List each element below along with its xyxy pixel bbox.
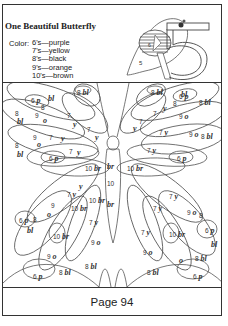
region-label: 10 br bbox=[53, 233, 69, 241]
region-label: 6 p bbox=[33, 273, 42, 281]
region-label: 9 o bbox=[179, 113, 188, 121]
region-label: 8 bl bbox=[199, 99, 211, 107]
worksheet-page: One Beautiful Butterfly Color: 6's—purpl… bbox=[2, 4, 222, 316]
region-label: 10 br bbox=[169, 231, 185, 239]
region-label: 8 bl bbox=[85, 263, 97, 271]
region-label: br bbox=[107, 163, 114, 171]
worksheet-header: One Beautiful Butterfly Color: 6's—purpl… bbox=[3, 5, 221, 83]
region-label: o bbox=[47, 211, 51, 219]
region-label: y bbox=[133, 125, 137, 133]
region-label: 7 bbox=[49, 135, 53, 142]
region-label: 8 bbox=[173, 101, 177, 108]
region-label: 8 bbox=[33, 217, 37, 224]
region-label: bl bbox=[181, 91, 187, 99]
region-label: y bbox=[95, 134, 99, 142]
page-footer: Page 94 bbox=[3, 288, 221, 315]
region-label: 6 p bbox=[31, 97, 40, 105]
region-label: 7 bbox=[67, 113, 71, 120]
region-label: 10 br bbox=[71, 205, 87, 213]
region-label: 10 br bbox=[127, 165, 143, 173]
region-label: o bbox=[37, 141, 41, 149]
region-label: 10 br bbox=[85, 165, 101, 173]
region-label: y bbox=[79, 183, 83, 191]
region-label: 6 p bbox=[49, 155, 58, 163]
region-label: 8 bl bbox=[77, 89, 89, 97]
region-label: 7 bbox=[139, 119, 143, 126]
region-label: 7 bbox=[87, 127, 91, 134]
region-label: o bbox=[179, 257, 183, 265]
number-five-pencil-logo-icon: 6 5 bbox=[125, 9, 221, 81]
svg-text:6: 6 bbox=[148, 42, 151, 48]
region-label: 9 bbox=[51, 203, 55, 210]
region-label: 8 bbox=[41, 105, 45, 112]
region-label: 9 o bbox=[143, 249, 152, 257]
region-label: 9 o bbox=[91, 239, 100, 247]
color-key-legend: 6's—purple 7's—yellow 8's—black 9's—oran… bbox=[32, 39, 73, 80]
region-label: 10 br bbox=[89, 197, 105, 205]
region-label: 7 y bbox=[147, 147, 156, 155]
region-label: bl bbox=[211, 241, 217, 249]
region-label: bl bbox=[27, 227, 33, 235]
region-label: 8 bl bbox=[59, 269, 71, 277]
region-label: y bbox=[73, 121, 77, 129]
color-key-label: Color: bbox=[9, 39, 29, 48]
region-label: 8 bl bbox=[201, 133, 213, 141]
region-label: 9 o bbox=[187, 209, 196, 217]
region-label: 9 bbox=[35, 113, 39, 120]
region-label: 8 bl bbox=[147, 269, 159, 277]
region-label: 10 bbox=[107, 181, 114, 188]
region-label: y bbox=[61, 135, 65, 143]
region-label: o bbox=[43, 117, 47, 125]
region-label: 7 y bbox=[89, 219, 98, 227]
region-label: bl bbox=[17, 118, 23, 126]
region-label: 8 bbox=[199, 213, 203, 220]
region-label: 7 y bbox=[159, 129, 168, 137]
region-label: 8 bbox=[15, 143, 19, 150]
worksheet-title: One Beautiful Butterfly bbox=[5, 21, 96, 31]
region-label: 6 p bbox=[205, 227, 214, 235]
legend-item-brown: 10's—brown bbox=[32, 72, 73, 80]
region-label: 7 y bbox=[153, 205, 162, 213]
page-number: Page 94 bbox=[91, 296, 134, 308]
region-label: 7 y bbox=[67, 191, 76, 199]
region-label: y bbox=[163, 105, 167, 113]
region-label: 6 p bbox=[177, 155, 186, 163]
svg-text:5: 5 bbox=[139, 60, 143, 66]
region-label: 6 p bbox=[19, 217, 28, 225]
region-label: bl bbox=[48, 95, 54, 103]
region-label: 9 o bbox=[47, 253, 56, 261]
region-label: 9 o bbox=[189, 131, 198, 139]
region-label: 8 bl bbox=[195, 255, 207, 263]
region-label: bl bbox=[17, 151, 23, 159]
region-label: 7 y bbox=[169, 193, 178, 201]
region-label: 7 y bbox=[141, 229, 150, 237]
region-label: 6 p bbox=[193, 273, 202, 281]
region-label: y bbox=[77, 149, 81, 157]
region-label: br bbox=[107, 201, 114, 209]
region-label: 7 bbox=[153, 111, 157, 118]
region-label: 8 bl bbox=[151, 89, 163, 97]
butterfly-coloring-area: 6 pbl8 bl8 bl8 8 bl9 o7 y7 y9 o7 y8 bl6 … bbox=[3, 83, 221, 288]
region-label: 7 bbox=[69, 149, 73, 156]
